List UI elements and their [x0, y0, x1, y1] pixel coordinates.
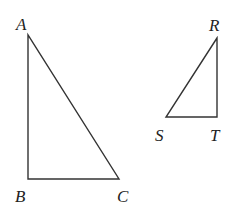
vertex-label-a: A — [15, 15, 27, 34]
vertex-label-b: B — [15, 187, 26, 206]
vertex-label-t: T — [210, 126, 221, 145]
vertex-label-c: C — [117, 187, 129, 206]
triangle-abc — [28, 35, 119, 179]
vertex-label-s: S — [155, 126, 164, 145]
triangle-rst — [166, 38, 217, 117]
diagram-canvas: A B C R S T — [0, 0, 240, 216]
vertex-label-r: R — [208, 16, 220, 35]
